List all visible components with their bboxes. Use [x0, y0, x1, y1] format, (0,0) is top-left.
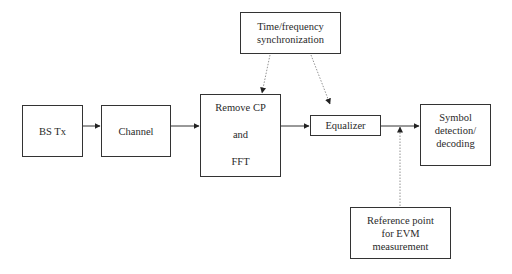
block-equalizer: Equalizer — [310, 115, 381, 136]
block-time-frequency-sync: Time/frequency synchronization — [240, 12, 341, 54]
block-label: Equalizer — [325, 119, 365, 132]
block-label-line: synchronization — [257, 33, 324, 46]
block-label-line: decoding — [436, 137, 475, 150]
block-label-line: and — [233, 128, 248, 141]
block-label: BS Tx — [39, 125, 66, 138]
block-label-line: FFT — [231, 155, 249, 168]
dotted-arrow-sync-to-equalizer — [311, 55, 330, 104]
block-label-line: Reference point — [367, 214, 434, 227]
block-symbol-detection: Symbol detection/ decoding — [420, 104, 491, 166]
block-label-line: for EVM — [381, 227, 419, 240]
block-label-line: Time/frequency — [257, 20, 324, 33]
block-remove-cp-fft: Remove CP and FFT — [200, 94, 281, 177]
dotted-arrow-sync-to-fft — [262, 55, 270, 93]
block-label-line: Symbol — [439, 111, 472, 124]
block-label-line: detection/ — [435, 124, 476, 137]
block-label-line: measurement — [373, 240, 429, 253]
block-label: Channel — [119, 125, 154, 138]
block-label-line: Remove CP — [215, 101, 265, 114]
block-reference-point: Reference point for EVM measurement — [350, 207, 451, 259]
block-bs-tx: BS Tx — [22, 105, 83, 157]
block-channel: Channel — [101, 105, 171, 157]
